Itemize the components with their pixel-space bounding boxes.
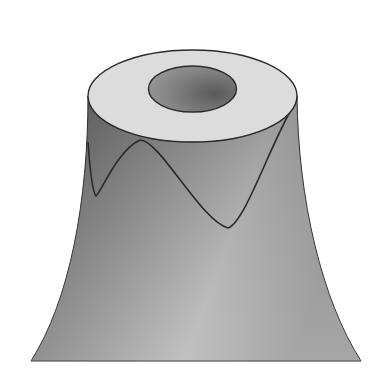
tube-inner-hole bbox=[149, 66, 237, 112]
flared-tube-figure bbox=[0, 0, 381, 388]
